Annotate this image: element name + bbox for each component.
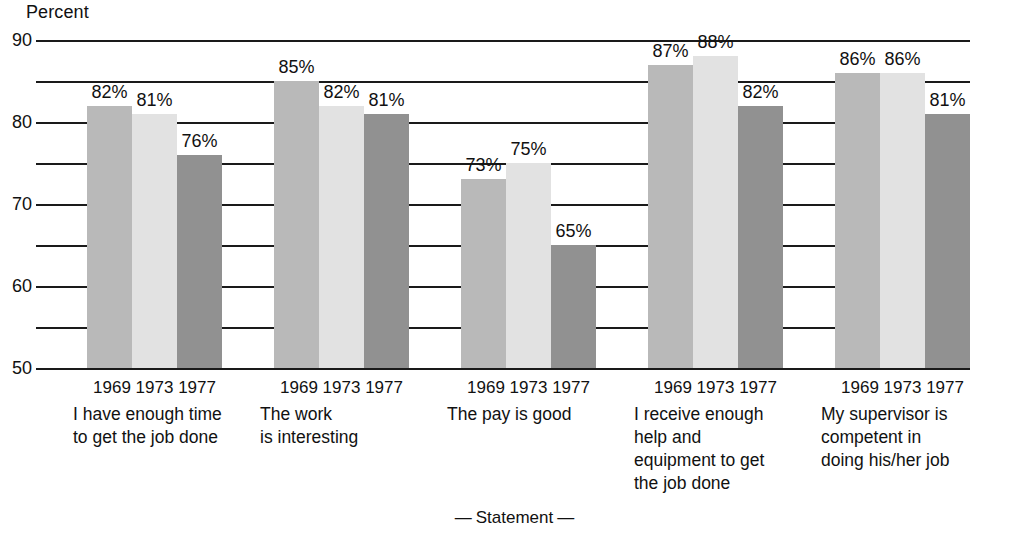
y-tick-label-60: 60 <box>0 277 32 295</box>
bar <box>274 81 319 368</box>
bar-value-label: 65% <box>541 222 606 240</box>
bar-value-label: 85% <box>264 58 329 76</box>
group-years-label: 1969 1973 1977 <box>262 378 421 397</box>
bar-chart: Percent 908070605082%81%76%85%82%81%73%7… <box>0 0 1029 543</box>
group-years-label: 1969 1973 1977 <box>636 378 795 397</box>
bar-value-label: 81% <box>915 91 980 109</box>
y-tick-mark-60 <box>36 286 62 288</box>
x-axis-title-dash-right: — <box>557 508 574 527</box>
bar <box>693 56 738 368</box>
category-label-line: help and <box>634 426 809 449</box>
bar <box>551 245 596 368</box>
bar-value-label: 81% <box>122 91 187 109</box>
group-years-label: 1969 1973 1977 <box>75 378 234 397</box>
bar <box>506 163 551 368</box>
gridline-80 <box>62 122 970 124</box>
plot-area: 908070605082%81%76%85%82%81%73%75%65%87%… <box>0 0 1029 380</box>
category-label-line: competent in <box>821 426 996 449</box>
y-tick-mark-80 <box>36 122 62 124</box>
y-tick-mark-85 <box>36 81 62 83</box>
category-label: The workis interesting <box>260 403 435 449</box>
category-label: I receive enoughhelp andequipment to get… <box>634 403 809 495</box>
bar <box>177 155 222 368</box>
bar-value-label: 86% <box>870 50 935 68</box>
y-tick-mark-65 <box>36 245 62 247</box>
y-tick-label-70: 70 <box>0 195 32 213</box>
gridline-50 <box>62 368 970 370</box>
y-tick-mark-55 <box>36 327 62 329</box>
bar <box>461 179 506 368</box>
bar <box>835 73 880 368</box>
category-label-line: is interesting <box>260 426 435 449</box>
category-label: The pay is good <box>447 403 622 426</box>
category-label-line: equipment to get <box>634 449 809 472</box>
x-axis-title-text: Statement <box>472 508 558 527</box>
category-label-line: to get the job done <box>73 426 248 449</box>
y-tick-label-90: 90 <box>0 31 32 49</box>
y-tick-mark-70 <box>36 204 62 206</box>
x-axis-title-dash-left: — <box>455 508 472 527</box>
gridline-90 <box>62 40 970 42</box>
category-label-line: The pay is good <box>447 403 622 426</box>
bar <box>648 65 693 368</box>
category-label-line: My supervisor is <box>821 403 996 426</box>
bar <box>319 106 364 368</box>
bar-value-label: 88% <box>683 33 748 51</box>
bar-value-label: 81% <box>354 91 419 109</box>
bar-value-label: 82% <box>728 83 793 101</box>
category-label-line: I receive enough <box>634 403 809 426</box>
group-years-label: 1969 1973 1977 <box>823 378 982 397</box>
category-label-line: doing his/her job <box>821 449 996 472</box>
category-label: My supervisor iscompetent indoing his/he… <box>821 403 996 472</box>
category-label-line: The work <box>260 403 435 426</box>
category-label-line: I have enough time <box>73 403 248 426</box>
bar <box>738 106 783 368</box>
bar-value-label: 76% <box>167 132 232 150</box>
bar-value-label: 75% <box>496 140 561 158</box>
gridline-85 <box>62 81 970 83</box>
bar <box>132 114 177 368</box>
y-tick-label-50: 50 <box>0 359 32 377</box>
bar <box>925 114 970 368</box>
y-tick-mark-90 <box>36 40 62 42</box>
x-axis-title: —Statement— <box>0 508 1029 528</box>
bar <box>364 114 409 368</box>
y-tick-mark-75 <box>36 163 62 165</box>
y-tick-mark-50 <box>36 368 62 370</box>
y-tick-label-80: 80 <box>0 113 32 131</box>
category-label: I have enough timeto get the job done <box>73 403 248 449</box>
bar <box>880 73 925 368</box>
bar <box>87 106 132 368</box>
category-label-line: the job done <box>634 472 809 495</box>
group-years-label: 1969 1973 1977 <box>449 378 608 397</box>
